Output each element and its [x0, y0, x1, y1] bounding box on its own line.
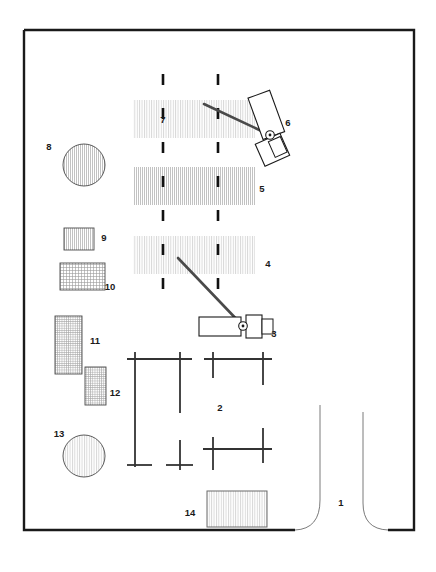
label-8: 8 [46, 141, 51, 152]
label-12: 12 [110, 387, 121, 398]
label-13: 13 [54, 428, 65, 439]
rect-14 [207, 491, 267, 527]
rect-11 [55, 316, 82, 374]
circle-8 [63, 144, 105, 186]
label-5: 5 [259, 183, 265, 194]
label-11: 11 [90, 335, 101, 346]
label-14: 14 [185, 507, 196, 518]
technical-floor-plan: 1 2 3 4 5 6 7 8 9 10 11 12 13 14 [0, 0, 436, 572]
label-3: 3 [271, 328, 276, 339]
rect-12 [85, 367, 106, 405]
label-2: 2 [217, 402, 222, 413]
rect-9 [64, 228, 94, 250]
band-5 [133, 167, 255, 205]
circle-13 [63, 435, 105, 477]
label-9: 9 [101, 232, 106, 243]
label-6: 6 [285, 117, 290, 128]
vehicle-lower [199, 315, 273, 338]
band-4 [133, 236, 255, 274]
plan-canvas: 1 2 3 4 5 6 7 8 9 10 11 12 13 14 [0, 0, 436, 572]
rect-10 [60, 263, 105, 290]
label-10: 10 [105, 281, 116, 292]
crosshair-grid [127, 352, 272, 470]
label-7: 7 [160, 114, 165, 125]
label-4: 4 [265, 258, 271, 269]
label-1: 1 [338, 497, 344, 508]
entrance-opening [295, 405, 388, 530]
